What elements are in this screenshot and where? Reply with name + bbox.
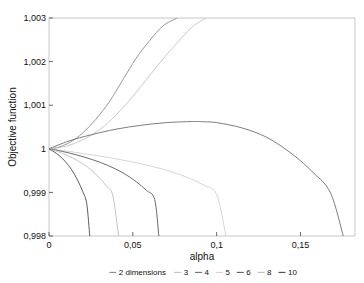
y-tick-label: 1	[41, 144, 46, 154]
legend-label-2: 2 dimensions	[119, 268, 166, 277]
legend-label-5: 5	[225, 268, 230, 277]
y-tick-label: 1,002	[23, 57, 46, 67]
x-tick-label: 0,05	[124, 240, 142, 250]
x-axis-title: alpha	[190, 251, 215, 262]
y-tick-label: 0,998	[23, 231, 46, 241]
x-tick-label: 0,1	[210, 240, 223, 250]
y-tick-label: 1,001	[23, 100, 46, 110]
x-tick-label: 0,15	[292, 240, 310, 250]
y-axis-title: Objective function	[7, 87, 18, 167]
chart-figure: 1,0031,0021,00110,9990,998 00,050,10,15 …	[0, 0, 364, 283]
x-tick-label: 0	[46, 240, 51, 250]
objective-function-line-chart: 1,0031,0021,00110,9990,998 00,050,10,15 …	[0, 0, 364, 283]
legend-label-10: 10	[288, 268, 297, 277]
y-tick-label: 1,003	[23, 13, 46, 23]
legend-label-6: 6	[246, 268, 251, 277]
legend-label-4: 4	[205, 268, 210, 277]
legend-label-3: 3	[184, 268, 189, 277]
chart-background	[0, 0, 364, 283]
legend-label-8: 8	[267, 268, 272, 277]
y-tick-label: 0,999	[23, 188, 46, 198]
